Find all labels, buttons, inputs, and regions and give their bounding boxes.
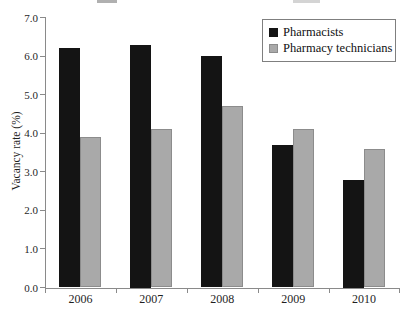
y-tick-mark — [40, 287, 45, 288]
y-tick-mark — [40, 17, 45, 18]
legend-swatch-pharmacy-technicians — [269, 44, 278, 53]
y-tick-mark — [40, 94, 45, 95]
bar-pharmacists-2010 — [343, 180, 364, 288]
x-tick-mark — [258, 289, 259, 293]
x-tick-mark — [329, 289, 330, 293]
y-tick-label: 2.0 — [6, 203, 38, 217]
bar-pharmacists-2006 — [59, 48, 80, 287]
y-tick-mark — [40, 56, 45, 57]
x-tick-label-2006: 2006 — [50, 292, 110, 307]
legend: Pharmacists Pharmacy technicians — [262, 19, 396, 62]
x-tick-mark — [116, 289, 117, 293]
y-tick-label: 3.0 — [6, 165, 38, 179]
bar-pharmacy-technicians-2009 — [293, 129, 314, 287]
x-tick-label-2010: 2010 — [334, 292, 394, 307]
bar-pharmacy-technicians-2007 — [151, 129, 172, 287]
y-tick-label: 7.0 — [6, 11, 38, 25]
vacancy-rate-bar-chart: Vacancy rate (%) 0.01.02.03.04.05.06.07.… — [0, 0, 400, 313]
y-tick-label: 1.0 — [6, 242, 38, 256]
y-tick-mark — [40, 210, 45, 211]
bar-pharmacy-technicians-2010 — [364, 149, 385, 288]
y-tick-label: 6.0 — [6, 49, 38, 63]
x-tick-label-2007: 2007 — [121, 292, 181, 307]
y-tick-mark — [40, 248, 45, 249]
bar-pharmacists-2008 — [201, 56, 222, 287]
legend-item-pharmacists: Pharmacists — [269, 24, 390, 40]
bar-pharmacists-2007 — [130, 45, 151, 288]
legend-item-pharmacy-technicians: Pharmacy technicians — [269, 40, 390, 56]
x-tick-mark — [45, 289, 46, 293]
legend-label-pharmacy-technicians: Pharmacy technicians — [283, 41, 392, 56]
y-tick-label: 0.0 — [6, 281, 38, 295]
cropped-title-remnant — [293, 0, 320, 3]
bar-pharmacy-technicians-2006 — [80, 137, 101, 287]
y-axis-line — [45, 17, 46, 288]
y-tick-mark — [40, 133, 45, 134]
bar-pharmacy-technicians-2008 — [222, 106, 243, 287]
y-axis-title: Vacancy rate (%) — [10, 96, 26, 206]
cropped-title-remnant — [97, 0, 117, 3]
x-axis-line — [45, 288, 400, 289]
y-tick-label: 4.0 — [6, 126, 38, 140]
legend-swatch-pharmacists — [269, 28, 278, 37]
x-tick-label-2009: 2009 — [263, 292, 323, 307]
legend-label-pharmacists: Pharmacists — [283, 25, 343, 40]
y-tick-mark — [40, 171, 45, 172]
x-tick-label-2008: 2008 — [192, 292, 252, 307]
y-tick-label: 5.0 — [6, 88, 38, 102]
x-tick-mark — [187, 289, 188, 293]
bar-pharmacists-2009 — [272, 145, 293, 288]
